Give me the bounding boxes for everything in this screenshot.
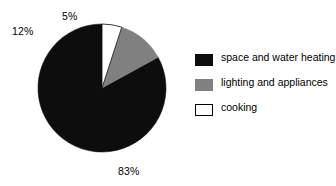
pie-label-cooking-percent: 5% (62, 10, 78, 22)
pie-label-heating-percent: 83% (118, 165, 140, 177)
legend-label-cooking: cooking (221, 102, 257, 114)
black-swatch-icon (195, 54, 213, 66)
legend-label-space-and-water-heating: space and water heating (221, 52, 335, 64)
legend-label-lighting-and-appliances: lighting and appliances (221, 77, 328, 89)
pie-label-lighting-percent: 12% (12, 25, 34, 37)
gray-swatch-icon (195, 79, 213, 91)
white-swatch-icon (195, 104, 213, 116)
legend-item-lighting-and-appliances: lighting and appliances (195, 77, 336, 91)
legend-item-space-and-water-heating: space and water heating (195, 52, 336, 66)
pie-chart-figure: 5% 12% 83% space and water heating light… (0, 0, 336, 186)
chart-legend: space and water heating lighting and app… (195, 52, 336, 127)
legend-item-cooking: cooking (195, 102, 336, 116)
